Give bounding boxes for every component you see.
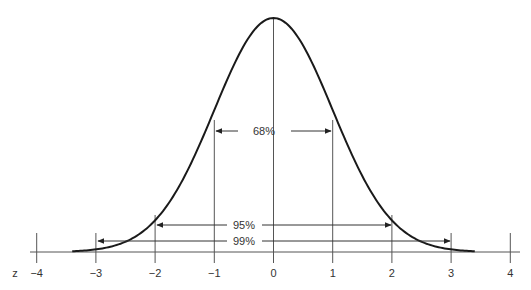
tick-label: 1 xyxy=(330,267,336,279)
tick-label: 0 xyxy=(270,267,276,279)
interval-68-annotation: 68% xyxy=(216,125,331,137)
tick-label: 3 xyxy=(448,267,454,279)
tick-label: 4 xyxy=(507,267,513,279)
label-68: 68% xyxy=(253,125,275,137)
normal-distribution-chart: 68% 95% 99% z −4−3−2−101234 xyxy=(0,0,531,290)
tick-label: −4 xyxy=(30,267,43,279)
z-axis-label: z xyxy=(12,267,18,279)
tick-label: −2 xyxy=(149,267,162,279)
tick-label: −1 xyxy=(208,267,221,279)
tick-labels: −4−3−2−101234 xyxy=(30,267,513,279)
label-99: 99% xyxy=(233,235,255,247)
tick-label: 2 xyxy=(389,267,395,279)
vertical-reference-lines xyxy=(37,18,511,263)
label-95: 95% xyxy=(233,219,255,231)
tick-label: −3 xyxy=(90,267,103,279)
